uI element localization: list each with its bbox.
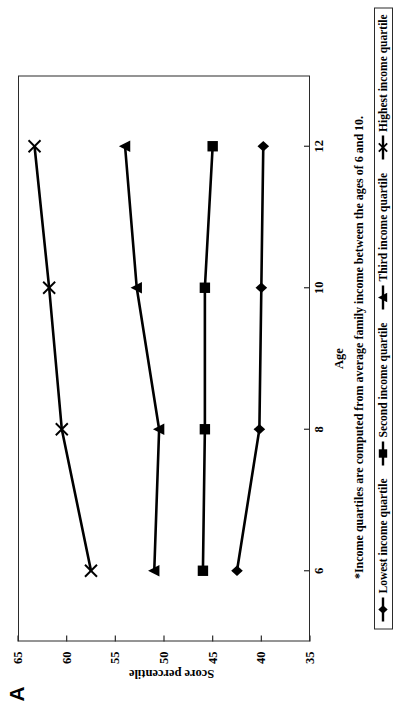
- x-axis-tick-labels: 681012: [312, 75, 332, 641]
- series-line: [237, 146, 263, 571]
- series-2: [119, 140, 164, 576]
- y-tick-label: 60: [59, 651, 74, 664]
- legend-label: Highest income quartile: [377, 14, 389, 132]
- diamond-marker-icon: [256, 282, 268, 292]
- y-tick-label: 65: [11, 651, 26, 664]
- series-line: [203, 146, 213, 571]
- diamond-marker-icon: [231, 565, 243, 575]
- y-tick-label: 40: [254, 651, 269, 664]
- square-marker-icon: [198, 565, 208, 575]
- y-tick-label: 35: [303, 651, 318, 664]
- legend-label: Lowest income quartile: [377, 478, 389, 593]
- series-1: [198, 141, 218, 576]
- x-tick-label: 10: [312, 281, 327, 294]
- y-tick-label: 55: [108, 651, 123, 664]
- chart-figure: A 65605550454035 Score percentile 681012…: [0, 0, 406, 707]
- diamond-marker-icon: [377, 596, 389, 622]
- legend-entry: Highest income quartile: [377, 14, 389, 161]
- footnote: *Income quartiles are computed from aver…: [352, 27, 367, 667]
- diamond-marker-icon: [257, 141, 269, 151]
- y-axis-title: Score percentile: [72, 666, 272, 681]
- plot-area: [18, 75, 310, 641]
- x-tick-label: 6: [312, 567, 327, 573]
- legend-entry: Third income quartile: [377, 172, 389, 310]
- legend: Lowest income quartileSecond income quar…: [374, 7, 393, 629]
- x-tick-label: 12: [312, 140, 327, 153]
- diamond-marker-icon: [254, 424, 266, 434]
- x-axis-title: Age: [332, 75, 347, 641]
- legend-entry: Lowest income quartile: [377, 478, 389, 622]
- square-marker-icon: [200, 282, 210, 292]
- series-0: [231, 141, 269, 576]
- square-marker-icon: [377, 440, 389, 466]
- triangle-marker-icon: [377, 284, 389, 310]
- square-marker-icon: [200, 424, 210, 434]
- legend-entry: Second income quartile: [377, 322, 389, 466]
- series-line: [125, 146, 159, 571]
- legend-label: Third income quartile: [377, 172, 389, 281]
- legend-label: Second income quartile: [377, 322, 389, 437]
- square-marker-icon: [207, 141, 217, 151]
- x-tick-label: 8: [312, 426, 327, 432]
- y-tick-label: 45: [205, 651, 220, 664]
- series-line: [35, 146, 91, 571]
- x-marker-icon: [377, 134, 389, 160]
- y-tick-label: 50: [157, 651, 172, 664]
- rotated-figure-container: A 65605550454035 Score percentile 681012…: [0, 0, 406, 707]
- series-3: [29, 140, 97, 577]
